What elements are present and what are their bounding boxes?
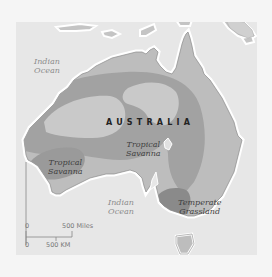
region-label-line1: Tropical: [48, 158, 83, 167]
region-label-line2: Grassland: [178, 207, 221, 216]
ocean-label-line2: Ocean: [108, 207, 134, 216]
scale-km-label: 500 KM: [46, 241, 70, 249]
country-label-australia: AUSTRALIA: [106, 118, 194, 127]
ocean-label-line2: Ocean: [34, 66, 60, 75]
ocean-label-south: Indian Ocean: [108, 198, 134, 216]
region-label-line1: Tropical: [126, 140, 161, 149]
region-label-line2: Savanna: [48, 167, 83, 176]
region-label-line2: Savanna: [126, 149, 161, 158]
map-panel: Indian Ocean Indian Ocean AUSTRALIA Trop…: [16, 22, 257, 255]
ocean-label-line1: Indian: [108, 198, 134, 207]
ocean-label-northwest: Indian Ocean: [34, 57, 60, 75]
northern-islands: [56, 22, 256, 44]
region-label-tropical-savanna-center: Tropical Savanna: [126, 140, 161, 158]
region-label-tropical-savanna-west: Tropical Savanna: [48, 158, 83, 176]
region-label-temperate-grassland: Temperate Grassland: [178, 198, 221, 216]
scale-miles-label: 500 Miles: [62, 222, 93, 230]
region-label-line1: Temperate: [178, 198, 221, 207]
ocean-label-line1: Indian: [34, 57, 60, 66]
scale-miles-zero: 0: [25, 222, 29, 230]
scale-km-zero: 0: [25, 241, 29, 249]
